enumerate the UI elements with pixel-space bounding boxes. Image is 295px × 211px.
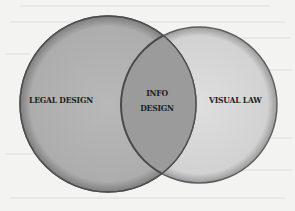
info-design-label-line2: DESIGN: [136, 101, 178, 116]
info-design-label: INFO DESIGN: [136, 86, 178, 116]
visual-law-label: VISUAL LAW: [209, 97, 262, 105]
info-design-label-line1: INFO: [136, 86, 178, 101]
legal-design-label: LEGAL DESIGN: [29, 97, 93, 105]
